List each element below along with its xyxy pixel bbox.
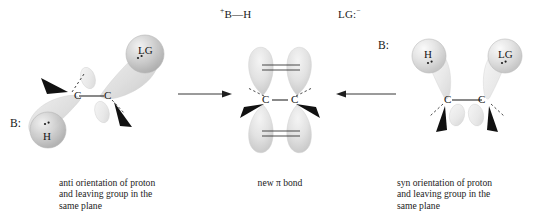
- atom-label-beta-carbon-syn: C: [478, 94, 485, 105]
- reagent-leaving-group: LG:−: [338, 8, 361, 20]
- atom-label-alpha-carbon-syn: C: [444, 94, 451, 105]
- reaction-arrow-left: [336, 91, 396, 98]
- reagent-protonated-base: +B—H: [220, 8, 251, 20]
- atom-label-carbon-right-alkene: C: [291, 94, 298, 105]
- caption-alkene: new π bond: [228, 177, 332, 188]
- p-orbital-upper-left: [249, 47, 274, 95]
- structure-alkene: [240, 47, 320, 153]
- pi-overlap-lower: [262, 131, 300, 136]
- wedge-bonds-alkene: [240, 104, 320, 118]
- atom-label-leaving-group-anti: LG: [138, 45, 153, 56]
- wedge-bonds-syn: [436, 106, 498, 132]
- atom-label-alpha-carbon-anti: C: [74, 90, 81, 101]
- orbital-small-lobes-syn: [447, 103, 485, 128]
- p-orbital-lower-right: [287, 105, 312, 153]
- caption-anti: anti orientation of proton and leaving g…: [59, 177, 195, 211]
- base-label-anti: B:: [10, 118, 21, 130]
- protonated-base-text: B—H: [224, 8, 251, 20]
- p-orbital-upper-right: [287, 47, 312, 95]
- atom-label-beta-carbon-anti: C: [104, 90, 111, 101]
- atom-label-carbon-left-alkene: C: [262, 94, 269, 105]
- pi-overlap-upper: [262, 65, 300, 70]
- orbital-h-lobe: [29, 95, 80, 135]
- caption-syn: syn orientation of proton and leaving gr…: [397, 177, 537, 211]
- p-orbital-lower-left: [249, 105, 274, 153]
- wedge-bonds-anti: [41, 78, 132, 127]
- base-label-syn: B:: [378, 40, 389, 52]
- dashed-bonds-alkene: [248, 88, 312, 96]
- atom-label-proton-syn: H: [424, 49, 432, 60]
- charge-minus: −: [356, 6, 360, 15]
- atom-label-proton-anti: H: [43, 131, 51, 142]
- atom-label-leaving-group-syn: LG: [498, 49, 513, 60]
- figure-canvas: +B—H LG:− B: C C H LG C C B: C C H LG an…: [0, 0, 538, 224]
- reaction-arrow-right: [178, 91, 232, 98]
- leaving-group-text: LG:: [338, 8, 356, 20]
- dashed-bonds-syn: [430, 104, 504, 116]
